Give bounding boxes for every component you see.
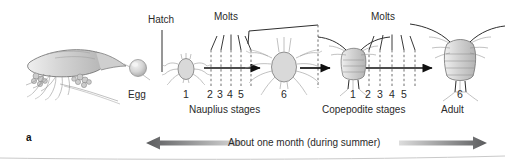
label-molts-copepodite: Molts <box>371 11 395 22</box>
stage-number-nauplius-3: 3 <box>217 89 223 100</box>
molt-ticks-nauplius <box>211 35 251 51</box>
stage-number-copepodite-5: 5 <box>401 89 407 100</box>
stage-number-nauplius-2: 2 <box>207 89 213 100</box>
label-copepodite-stages: Copepodite stages <box>322 104 405 115</box>
stage-number-copepodite-1: 1 <box>350 89 356 100</box>
nauplius-larva-stage-1 <box>162 53 210 85</box>
stage-number-nauplius-4: 4 <box>227 89 233 100</box>
molt-ticks-copepodite <box>369 35 415 51</box>
nauplius-stage-dashed-lines <box>211 50 251 88</box>
stage-number-copepodite-2: 2 <box>365 89 371 100</box>
label-adult: Adult <box>441 104 464 115</box>
timeline-arrow-right <box>399 137 487 150</box>
stage-number-copepodite-3: 3 <box>377 89 383 100</box>
stage-number-adult-6: 6 <box>457 89 463 100</box>
egg-sphere <box>130 60 147 77</box>
stage-number-nauplius-6: 6 <box>281 89 287 100</box>
stage-number-nauplius-5: 5 <box>238 89 244 100</box>
figure-bottom-rule <box>0 156 505 159</box>
label-nauplius-stages: Nauplius stages <box>189 104 260 115</box>
label-hatch: Hatch <box>148 14 174 25</box>
figure-panel: Hatch Molts Molts Egg 1 2 3 4 5 6 1 2 3 … <box>0 0 505 162</box>
label-egg: Egg <box>128 89 146 100</box>
label-molts-nauplius: Molts <box>214 11 238 22</box>
panel-letter: a <box>26 132 32 143</box>
stage-number-copepodite-4: 4 <box>389 89 395 100</box>
copepodite-stage-dashed-lines <box>369 50 415 88</box>
label-timeline-duration: About one month (during summer) <box>228 137 380 148</box>
nauplius-larva-stage-6 <box>245 37 323 95</box>
nauplius-bracket <box>248 25 318 44</box>
stage-number-nauplius-1: 1 <box>183 89 189 100</box>
